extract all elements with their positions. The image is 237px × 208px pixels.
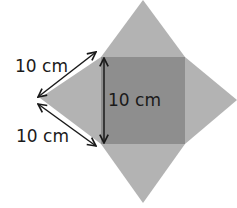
right-triangle-face: [185, 57, 237, 144]
top-triangle-face: [101, 0, 185, 57]
pyramid-net-diagram: 10 cm 10 cm 10 cm: [0, 0, 237, 208]
base-side-label: 10 cm: [108, 90, 161, 110]
bottom-triangle-face: [101, 144, 185, 203]
lower-slant-label: 10 cm: [16, 126, 69, 146]
upper-slant-label: 10 cm: [15, 56, 68, 76]
